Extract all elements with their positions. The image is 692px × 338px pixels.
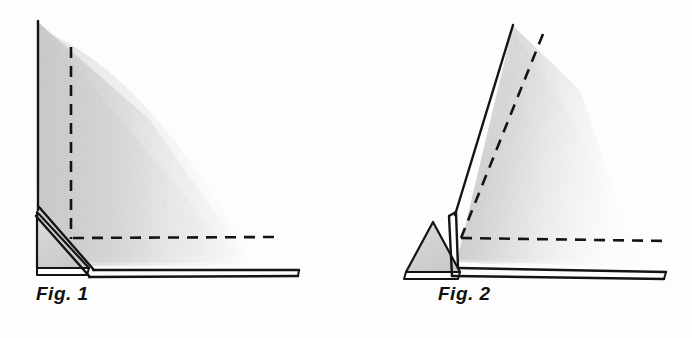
figure-2-group xyxy=(404,25,668,279)
fig2-base-edge-upper xyxy=(458,268,666,272)
figure-1-group xyxy=(36,21,299,277)
fig2-leaf-edge-upper xyxy=(456,212,458,268)
figures-illustration xyxy=(0,0,692,338)
fig1-base-edge-lower xyxy=(89,276,298,277)
fig2-base-edge-lower xyxy=(452,276,664,279)
fig1-flap-thickness xyxy=(37,268,89,275)
fig1-base-end-cap xyxy=(298,270,299,276)
figure-page: Fig. 1 Fig. 2 xyxy=(0,0,692,338)
figure-1-caption: Fig. 1 xyxy=(36,283,89,305)
fig2-shading xyxy=(457,26,640,268)
figure-2-caption: Fig. 2 xyxy=(438,283,491,305)
